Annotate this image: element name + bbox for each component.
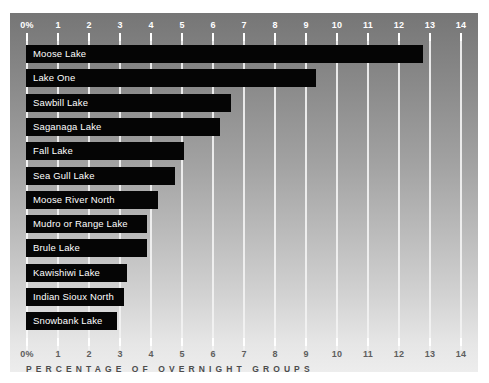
bar-row[interactable]: Brule Lake bbox=[26, 239, 147, 257]
bar-row[interactable]: Fall Lake bbox=[26, 142, 184, 160]
bar-category-label: Moose River North bbox=[33, 191, 115, 209]
bar-row[interactable]: Lake One bbox=[26, 69, 316, 87]
bar-category-label: Mudro or Range Lake bbox=[33, 215, 128, 233]
bar-row[interactable]: Snowbank Lake bbox=[26, 312, 117, 330]
bar-category-label: Brule Lake bbox=[33, 239, 80, 257]
bar-row[interactable]: Moose River North bbox=[26, 191, 158, 209]
bar-category-label: Fall Lake bbox=[33, 142, 73, 160]
bar-row[interactable]: Mudro or Range Lake bbox=[26, 215, 147, 233]
plot-area: Moose LakeLake OneSawbill LakeSaganaga L… bbox=[10, 13, 478, 372]
bar-category-label: Moose Lake bbox=[33, 45, 86, 63]
bar-category-label: Sawbill Lake bbox=[33, 94, 88, 112]
bar-category-label: Saganaga Lake bbox=[33, 118, 102, 136]
bar-row[interactable]: Moose Lake bbox=[26, 45, 423, 63]
bar-row[interactable]: Sea Gull Lake bbox=[26, 167, 175, 185]
bar-row[interactable]: Kawishiwi Lake bbox=[26, 264, 127, 282]
chart-panel: 0%1234567891011121314 0%1234567891011121… bbox=[10, 13, 478, 372]
bar-row[interactable]: Indian Sioux North bbox=[26, 288, 124, 306]
bar-row[interactable]: Saganaga Lake bbox=[26, 118, 220, 136]
bar-category-label: Snowbank Lake bbox=[33, 312, 103, 330]
bar-category-label: Lake One bbox=[33, 69, 75, 87]
bar-row[interactable]: Sawbill Lake bbox=[26, 94, 231, 112]
bar-category-label: Indian Sioux North bbox=[33, 288, 114, 306]
x-axis-caption: PERCENTAGE OF OVERNIGHT GROUPS bbox=[26, 364, 314, 372]
chart-figure: 0%1234567891011121314 0%1234567891011121… bbox=[0, 0, 489, 383]
bar-category-label: Sea Gull Lake bbox=[33, 167, 95, 185]
bar-category-label: Kawishiwi Lake bbox=[33, 264, 100, 282]
